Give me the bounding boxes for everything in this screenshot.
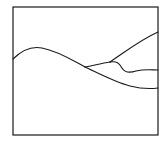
main-hill-curve [13,47,85,67]
middle-dip-curve [110,62,158,72]
sketch-diagram [0,0,163,141]
diagram-svg [0,0,163,141]
top-rising-curve [110,32,158,62]
upper-branch-curve [85,62,110,67]
